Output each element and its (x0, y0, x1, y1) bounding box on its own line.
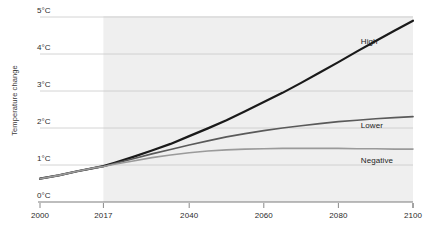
y-axis-title: Temperature change (10, 41, 19, 161)
x-tick-label-2017: 2017 (94, 211, 112, 220)
series-label-lower: Lower (361, 121, 383, 130)
y-tick-label-1: 1°C (37, 154, 51, 163)
temperature-projection-chart: Temperature change 0°C1°C2°C3°C4°C5°C 20… (0, 0, 429, 243)
x-tick-label-2100: 2100 (404, 211, 422, 220)
series-label-high: High (361, 37, 378, 46)
x-tick-label-2080: 2080 (329, 211, 347, 220)
x-tick-label-2060: 2060 (255, 211, 273, 220)
x-tick-label-2000: 2000 (31, 211, 49, 220)
x-tick-label-2040: 2040 (180, 211, 198, 220)
y-tick-label-0: 0°C (37, 191, 51, 200)
y-tick-label-3: 3°C (37, 80, 51, 89)
y-tick-label-2: 2°C (37, 117, 51, 126)
y-tick-label-4: 4°C (37, 43, 51, 52)
series-label-negative: Negative (361, 156, 393, 165)
y-tick-label-5: 5°C (37, 6, 51, 15)
